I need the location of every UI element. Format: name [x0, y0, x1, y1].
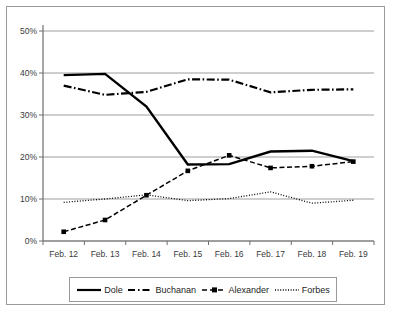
- x-tick-label: Feb. 12: [49, 249, 78, 259]
- x-tick-label: Feb. 16: [215, 249, 244, 259]
- x-tick-label: Feb. 18: [298, 249, 327, 259]
- data-point-marker: [103, 218, 108, 223]
- data-point-marker: [268, 166, 273, 171]
- legend-item-alexander: Alexander: [201, 285, 270, 295]
- y-tick-label: 30%: [20, 110, 37, 120]
- legend-label-buchanan: Buchanan: [155, 285, 196, 295]
- data-point-marker: [227, 153, 232, 158]
- series-line-buchanan: [64, 79, 354, 95]
- y-tick-label: 50%: [20, 26, 37, 36]
- plot-area: 0%10%20%30%40%50% Feb. 12Feb. 13Feb. 14F…: [7, 7, 386, 306]
- legend-swatch-forbes: [274, 285, 300, 295]
- y-tick-label: 20%: [20, 152, 37, 162]
- chart-legend: Dole Buchanan Alexander Forbes: [69, 277, 337, 302]
- legend-item-forbes: Forbes: [274, 285, 330, 295]
- legend-swatch-alexander: [201, 285, 227, 295]
- legend-swatch-buchanan: [127, 285, 153, 295]
- gridlines: [43, 31, 374, 241]
- legend-label-dole: Dole: [104, 285, 123, 295]
- y-tick-label: 40%: [20, 68, 37, 78]
- series-line-forbes: [64, 192, 354, 203]
- data-series-layer: [61, 74, 355, 234]
- y-tick-label: 10%: [20, 194, 37, 204]
- legend-label-alexander: Alexander: [229, 285, 270, 295]
- x-tick-label: Feb. 15: [173, 249, 202, 259]
- legend-label-forbes: Forbes: [302, 285, 330, 295]
- legend-item-buchanan: Buchanan: [127, 285, 196, 295]
- x-tick-label: Feb. 13: [91, 249, 120, 259]
- x-tick-label: Feb. 17: [256, 249, 285, 259]
- data-point-marker: [351, 159, 356, 164]
- x-tick-label: Feb. 19: [339, 249, 368, 259]
- y-tick-label: 0%: [25, 236, 38, 246]
- data-point-marker: [61, 229, 66, 234]
- x-tick-label: Feb. 14: [132, 249, 161, 259]
- x-axis-ticks: [43, 241, 374, 245]
- data-point-marker: [186, 169, 191, 174]
- x-axis-tick-labels: Feb. 12Feb. 13Feb. 14Feb. 15Feb. 16Feb. …: [49, 249, 368, 259]
- legend-item-dole: Dole: [76, 285, 123, 295]
- chart-frame: 0%10%20%30%40%50% Feb. 12Feb. 13Feb. 14F…: [6, 6, 385, 305]
- line-chart-svg: 0%10%20%30%40%50% Feb. 12Feb. 13Feb. 14F…: [7, 7, 386, 306]
- data-point-marker: [310, 164, 315, 169]
- series-line-dole: [64, 74, 354, 165]
- legend-swatch-dole: [76, 285, 102, 295]
- y-axis-tick-labels: 0%10%20%30%40%50%: [20, 26, 37, 246]
